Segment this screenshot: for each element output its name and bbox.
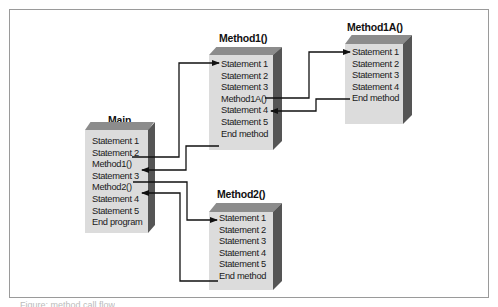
figure-caption: Figure: method call flow [20,300,115,307]
call-arrow-method2 [133,182,217,220]
return-arrow-method1 [142,146,219,170]
call-arrow-method1a [265,52,350,98]
call-arrow-method1 [132,63,219,157]
return-arrow-method2 [142,193,218,281]
return-arrow-method1a [271,99,350,111]
connector-lines [0,0,498,307]
